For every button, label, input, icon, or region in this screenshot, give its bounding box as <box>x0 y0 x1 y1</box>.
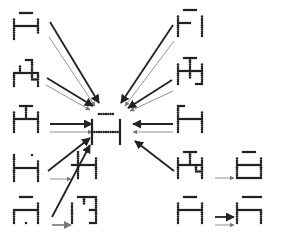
glyph-dot <box>77 157 80 160</box>
glyph-dot <box>177 170 180 173</box>
glyph-dot <box>13 83 16 86</box>
glyph-dot <box>95 162 98 165</box>
glyph-dot <box>177 202 180 205</box>
glyph-dot <box>201 168 204 171</box>
glyph-mapping-diagram <box>0 0 281 247</box>
glyph-dot <box>13 116 16 119</box>
glyph-r5 <box>177 196 204 225</box>
glyph-dot <box>31 59 34 62</box>
glyph-dot <box>236 207 239 210</box>
glyph-dot <box>189 22 192 25</box>
glyph-dot <box>71 207 74 210</box>
glyph-dot <box>95 177 98 180</box>
glyph-dot <box>195 196 198 199</box>
glyph-dot <box>260 157 263 160</box>
glyph-dot <box>236 202 239 205</box>
glyph-dot <box>71 209 74 212</box>
glyph-dot <box>201 209 204 212</box>
glyph-l2 <box>13 59 40 88</box>
glyph-dot <box>95 168 98 171</box>
glyph-dot <box>37 167 40 170</box>
glyph-dot <box>37 18 40 21</box>
glyph-dot <box>37 207 40 210</box>
glyph-dot <box>105 113 108 116</box>
glyph-dot <box>102 131 105 134</box>
glyph-dot <box>201 68 204 71</box>
glyph-dot <box>13 29 16 32</box>
glyph-dot <box>260 196 263 199</box>
glyph-dot <box>201 164 204 167</box>
glyph-dot <box>201 215 204 218</box>
glyph-dot <box>37 209 40 212</box>
glyph-dot <box>109 131 112 134</box>
glyph-dot <box>13 180 16 183</box>
glyph-dot <box>183 105 186 108</box>
glyph-dot <box>260 177 263 180</box>
glyphs-layer <box>13 9 263 225</box>
glyph-dot <box>37 85 40 88</box>
glyph-dot <box>201 220 204 223</box>
glyph-dot <box>13 129 16 132</box>
glyph-dot <box>13 158 16 161</box>
glyph-dot <box>189 162 192 165</box>
glyph-dot <box>19 70 22 73</box>
glyph-dot <box>260 164 263 167</box>
glyph-dot <box>105 131 108 134</box>
glyph-dot <box>177 15 180 18</box>
glyph-dot <box>37 23 40 26</box>
glyph-dot <box>13 38 16 41</box>
arrow-r1 <box>125 41 174 106</box>
glyph-dot <box>107 113 110 116</box>
glyph-dot <box>95 170 98 173</box>
glyph-dot <box>177 122 180 125</box>
glyph-dot <box>201 124 204 127</box>
glyph-dot <box>201 26 204 29</box>
glyph-dot <box>177 213 180 216</box>
glyph-dot <box>95 209 98 212</box>
glyph-dot <box>37 131 40 134</box>
glyph-dot <box>177 35 180 38</box>
glyph-dot <box>31 63 34 66</box>
glyph-dot <box>177 177 180 180</box>
glyph-dot <box>95 175 98 178</box>
glyph-dot <box>95 213 98 216</box>
glyph-dot <box>31 154 34 157</box>
glyph-dot <box>236 170 239 173</box>
glyph-dot <box>37 178 40 181</box>
glyph-dot <box>95 196 98 199</box>
glyph-dot <box>177 168 180 171</box>
glyph-dot <box>189 63 192 66</box>
glyph-dot <box>13 18 16 21</box>
glyph-dot <box>177 157 180 160</box>
glyph-dot <box>201 28 204 31</box>
glyph-dot <box>31 105 34 108</box>
glyph-dot <box>201 177 204 180</box>
glyph-dot <box>236 213 239 216</box>
glyph-dot <box>25 222 28 225</box>
arrow-l1 <box>50 22 99 103</box>
glyph-dot <box>254 151 257 154</box>
glyph-rr5 <box>236 196 263 225</box>
glyph-dot <box>37 202 40 205</box>
glyph-dot <box>25 116 28 119</box>
glyph-dot <box>195 151 198 154</box>
glyph-dot <box>31 12 34 15</box>
glyph-dot <box>177 28 180 31</box>
glyph-dot <box>13 76 16 79</box>
glyph-dot <box>37 180 40 183</box>
glyph-dot <box>13 23 16 26</box>
glyph-dot <box>13 173 16 176</box>
glyph-dot <box>177 116 180 119</box>
glyph-dot <box>37 122 40 125</box>
glyph-dot <box>13 154 16 157</box>
glyph-dot <box>260 162 263 165</box>
glyph-dot <box>95 164 98 167</box>
glyph-dot <box>98 113 101 116</box>
glyph-dot <box>13 36 16 39</box>
glyph-dot <box>95 207 98 210</box>
glyph-dot <box>112 131 115 134</box>
glyph-dot <box>37 160 40 163</box>
glyph-dot <box>201 116 204 119</box>
glyph-dot <box>195 168 198 171</box>
glyph-dot <box>177 33 180 36</box>
